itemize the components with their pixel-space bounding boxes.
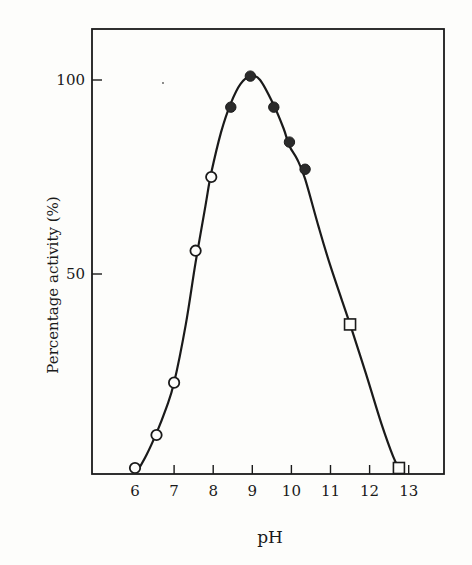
- open-square-marker: [345, 319, 356, 330]
- open-circle-marker: [130, 463, 140, 473]
- x-tick-label: 8: [208, 482, 218, 500]
- filled-circle-marker: [269, 102, 279, 112]
- ph-activity-chart: 67891011121350100 pH Percentage activity…: [0, 0, 472, 565]
- x-tick-label: 11: [321, 482, 340, 500]
- filled-circle-marker: [245, 71, 255, 81]
- open-circle-marker: [190, 246, 200, 256]
- open-circle-marker: [206, 172, 216, 182]
- fitted-curve: [137, 76, 399, 472]
- x-tick-label: 7: [169, 482, 179, 500]
- x-tick-label: 10: [282, 482, 301, 500]
- filled-circle-marker: [300, 164, 310, 174]
- y-axis-label: Percentage activity (%): [44, 196, 62, 373]
- y-tick-label: 100: [56, 71, 85, 89]
- x-axis-label: pH: [257, 527, 283, 547]
- filled-circle-marker: [284, 137, 294, 147]
- x-tick-label: 12: [360, 482, 379, 500]
- open-circle-marker: [151, 430, 161, 440]
- axis-ticks: [92, 80, 409, 474]
- open-circle-marker: [169, 377, 179, 387]
- print-speck: [162, 82, 164, 84]
- axis-tick-labels: 67891011121350100: [56, 71, 418, 500]
- x-tick-label: 6: [130, 482, 140, 500]
- x-tick-label: 13: [399, 482, 418, 500]
- open-square-marker: [393, 463, 404, 474]
- x-tick-label: 9: [248, 482, 258, 500]
- data-markers: [130, 71, 405, 474]
- y-tick-label: 50: [66, 265, 85, 283]
- filled-circle-marker: [226, 102, 236, 112]
